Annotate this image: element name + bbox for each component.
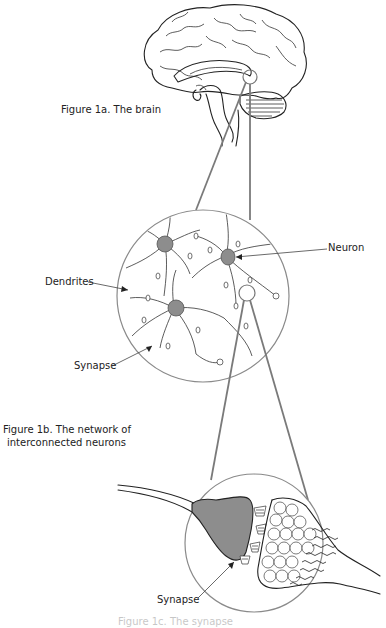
figure-1b-caption-line2: interconnected neurons [7,437,126,449]
figure-1a-caption: Figure 1a. The brain [61,104,161,116]
figure-1b-caption-line1: Figure 1b. The network of [3,424,131,436]
network-circle [117,210,289,382]
neuron-network-illustration [117,205,289,382]
connector-line-left [196,82,246,210]
neuron-soma [221,249,235,265]
neuron-label: Neuron [328,242,364,254]
synapse-detail-label: Synapse [157,594,199,606]
neuron-soma [168,300,184,316]
figure-1c-caption: Figure 1c. The synapse [118,616,233,628]
brain-illustration [144,5,306,146]
synapse-detail-illustration [118,474,380,612]
dendrites-label: Dendrites [45,276,94,288]
synapse-label: Synapse [74,360,116,372]
neuron-soma [157,236,173,252]
